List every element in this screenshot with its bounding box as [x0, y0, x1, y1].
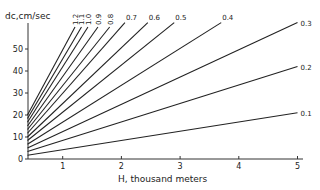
x-tick-label: 5	[295, 162, 300, 171]
x-tick-label: 4	[236, 162, 241, 171]
chart: 0102030405012345 0.10.20.30.40.50.60.70.…	[0, 0, 320, 190]
series-line	[27, 27, 109, 130]
y-tick-label: 20	[13, 111, 23, 120]
series-line	[27, 23, 221, 145]
series-label: 0.7	[126, 14, 137, 22]
series-line	[27, 27, 97, 126]
series-line	[27, 27, 75, 115]
series-label: 0.6	[149, 14, 161, 22]
x-axis-label: H, thousand meters	[118, 174, 207, 184]
series-label: 1.2	[72, 14, 80, 25]
x-tick-label: 2	[119, 162, 124, 171]
series-label: 0.3	[301, 20, 312, 28]
axes: 0102030405012345	[13, 23, 303, 171]
series-label: 0.5	[175, 14, 186, 22]
series-label: 0.1	[301, 110, 312, 118]
series-line	[27, 23, 297, 148]
y-tick-label: 0	[18, 155, 23, 164]
x-tick-label: 3	[178, 162, 183, 171]
y-tick-label: 40	[13, 67, 23, 76]
series-label: 0.4	[222, 14, 234, 22]
series-lines	[27, 23, 297, 156]
series-label: 0.9	[95, 14, 103, 25]
y-axis-label: dc,cm/sec	[5, 11, 50, 21]
series-label: 0.8	[107, 14, 115, 25]
y-tick-label: 10	[13, 133, 23, 142]
y-tick-label: 50	[13, 45, 23, 54]
y-tick-label: 30	[13, 89, 23, 98]
series-line	[27, 23, 124, 134]
x-tick-label: 1	[60, 162, 65, 171]
series-label: 0.2	[301, 64, 312, 72]
